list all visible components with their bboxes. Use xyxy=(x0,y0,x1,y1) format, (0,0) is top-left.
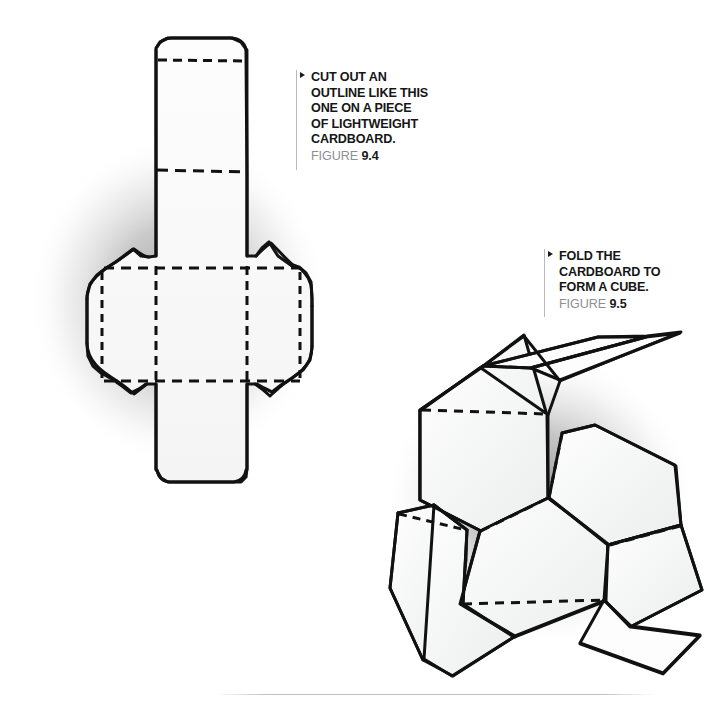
fold-left-panel-diag xyxy=(422,410,546,414)
caption-line: ONE ON A PIECE xyxy=(311,101,428,117)
net-cut-outline xyxy=(87,38,312,482)
figure-number: 9.4 xyxy=(361,149,378,163)
net-fold-lines xyxy=(102,60,300,383)
fold-top-flap xyxy=(158,60,246,61)
triangle-right-marker xyxy=(548,251,553,257)
figure-caption-9-4: CUT OUT AN OUTLINE LIKE THIS ONE ON A PI… xyxy=(296,70,428,170)
figure-label-line: FIGURE 9.4 xyxy=(311,149,428,165)
fold-left-wing-edge xyxy=(399,514,466,530)
net-drop-shadow xyxy=(28,135,328,465)
folded-fold-lines xyxy=(399,410,680,604)
fold-right-lower-edge xyxy=(610,526,680,545)
net-outline-ink xyxy=(87,38,312,482)
caption-text-block: FOLD THE CARDBOARD TO FORM A CUBE. FIGUR… xyxy=(553,249,661,312)
caption-line: CARDBOARD TO xyxy=(559,265,661,281)
caption-rule xyxy=(544,249,545,317)
panel-right-lower xyxy=(604,525,702,627)
caption-line: CARDBOARD. xyxy=(311,132,428,148)
panel-back-left xyxy=(420,335,546,530)
caption-line: FOLD THE xyxy=(559,249,661,265)
figure-caption-9-5: FOLD THE CARDBOARD TO FORM A CUBE. FIGUR… xyxy=(544,249,661,317)
triangle-right-marker xyxy=(300,72,305,78)
figure-number: 9.5 xyxy=(609,297,626,311)
caption-rule xyxy=(296,70,297,170)
panel-left xyxy=(420,368,548,531)
fold-right-panel-edge xyxy=(549,434,562,497)
fold-upper-panel xyxy=(157,170,247,172)
figure-label-line: FIGURE 9.5 xyxy=(559,297,661,313)
figure-word: FIGURE xyxy=(559,297,606,311)
fold-left-panel-base xyxy=(481,498,548,531)
flap-top-left xyxy=(483,337,646,368)
fold-center-bottom-edge xyxy=(463,600,606,604)
page-bottom-rule xyxy=(215,694,655,695)
caption-line: OUTLINE LIKE THIS xyxy=(311,86,428,102)
panel-center-bottom xyxy=(460,498,608,636)
folded-drop-shadow xyxy=(385,352,695,648)
figure-page: CUT OUT AN OUTLINE LIKE THIS ONE ON A PI… xyxy=(0,0,719,707)
caption-line: CUT OUT AN xyxy=(311,70,428,86)
flap-left-wing xyxy=(390,505,466,660)
caption-text-block: CUT OUT AN OUTLINE LIKE THIS ONE ON A PI… xyxy=(305,70,428,165)
flap-top-right xyxy=(531,333,680,380)
panel-right-upper xyxy=(549,425,681,545)
flap-bottom-right xyxy=(580,600,700,673)
panel-bottom-left xyxy=(424,505,514,676)
figure-word: FIGURE xyxy=(311,149,358,163)
folded-ink-overlay xyxy=(390,332,702,676)
caption-line: FORM A CUBE. xyxy=(559,280,661,296)
caption-line: OF LIGHTWEIGHT xyxy=(311,117,428,133)
net-outline-group xyxy=(87,38,312,482)
